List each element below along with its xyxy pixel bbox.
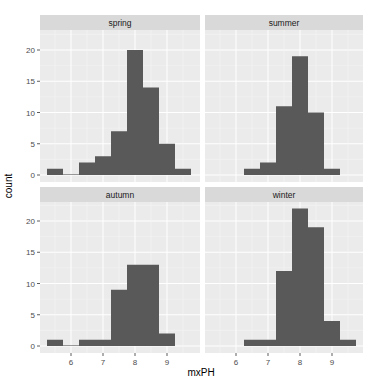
y-tick-label: 5	[31, 140, 36, 149]
x-axis-title: mxPH	[187, 367, 214, 378]
y-tick-label: 5	[31, 311, 36, 320]
x-tick-label: 9	[330, 358, 335, 367]
histogram-bar	[276, 106, 292, 175]
histogram-bar	[63, 345, 79, 346]
y-tick-label: 20	[26, 217, 35, 226]
x-tick-label: 7	[266, 358, 271, 367]
histogram-bar	[324, 321, 340, 346]
histogram-bar	[143, 88, 159, 176]
histogram-bar	[63, 174, 79, 175]
faceted-histogram-chart: spring05101520summerautumn051015206789wi…	[0, 0, 378, 390]
histogram-bar	[175, 169, 191, 175]
x-tick-label: 9	[165, 358, 170, 367]
histogram-bar	[143, 265, 159, 346]
y-tick-label: 15	[26, 77, 35, 86]
facet-label: autumn	[106, 190, 135, 200]
y-tick-label: 10	[26, 280, 35, 289]
x-tick-label: 6	[234, 358, 239, 367]
histogram-bar	[111, 290, 127, 346]
histogram-bar	[244, 340, 260, 346]
y-axis-title: count	[3, 174, 14, 199]
y-tick-label: 0	[31, 171, 36, 180]
histogram-bar	[260, 163, 276, 176]
histogram-bar	[260, 340, 276, 346]
histogram-bar	[308, 113, 324, 176]
histogram-bar	[127, 50, 143, 175]
facet-winter: winter6789	[205, 187, 363, 367]
facet-autumn: autumn051015206789	[26, 187, 200, 367]
x-tick-label: 7	[101, 358, 106, 367]
facet-label: spring	[108, 18, 131, 28]
histogram-bar	[324, 169, 340, 175]
x-tick-label: 6	[69, 358, 74, 367]
histogram-bar	[244, 169, 260, 175]
histogram-bar	[111, 131, 127, 175]
histogram-bar	[95, 156, 111, 175]
y-tick-label: 10	[26, 109, 35, 118]
y-tick-label: 15	[26, 248, 35, 257]
histogram-bar	[340, 340, 356, 346]
histogram-bar	[127, 265, 143, 346]
histogram-bar	[47, 340, 63, 346]
histogram-bar	[79, 340, 95, 346]
histogram-bar	[79, 163, 95, 176]
histogram-bar	[159, 334, 175, 347]
x-tick-label: 8	[298, 358, 303, 367]
facet-label: winter	[272, 190, 296, 200]
x-tick-label: 8	[133, 358, 138, 367]
facet-label: summer	[269, 18, 300, 28]
histogram-bar	[308, 227, 324, 346]
facet-spring: spring05101520	[26, 15, 200, 182]
histogram-bar	[159, 144, 175, 175]
histogram-bar	[276, 271, 292, 346]
histogram-bar	[292, 209, 308, 347]
y-tick-label: 20	[26, 46, 35, 55]
histogram-bar	[95, 340, 111, 346]
histogram-bar	[47, 169, 63, 175]
y-tick-label: 0	[31, 342, 36, 351]
histogram-bar	[292, 56, 308, 175]
facet-summer: summer	[205, 15, 363, 182]
